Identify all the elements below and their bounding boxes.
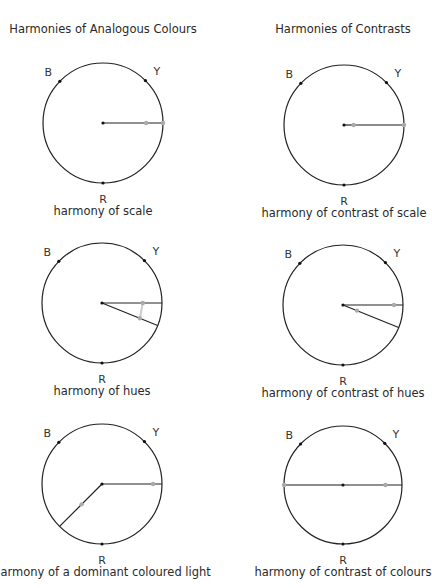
column-title-contrasts: Harmonies of Contrasts [275, 22, 411, 36]
radius-arm [343, 305, 399, 327]
diagram-caption: harmony of contrast of colours [254, 565, 431, 579]
harmony-diagram: BYRharmony of hues [42, 243, 162, 398]
pole-label-b: B [286, 68, 294, 81]
harmony-diagram: BYRharmony of contrast of colours [254, 426, 431, 579]
pole-dot-y [385, 81, 388, 84]
pole-label-b: B [44, 427, 52, 440]
pole-dot-r [341, 363, 344, 366]
diagram-caption: harmony of contrast of hues [261, 386, 424, 400]
pole-dot-b [57, 260, 60, 263]
pole-dot-r [100, 542, 103, 545]
pole-label-b: B [45, 66, 53, 79]
center-dot [341, 303, 344, 306]
radius-arm [102, 303, 158, 325]
diagram-caption: harmony of a dominant coloured light [0, 565, 211, 579]
pole-dot-r [101, 181, 104, 184]
value-marker [392, 303, 396, 307]
diagram-caption: harmony of contrast of scale [261, 206, 426, 220]
pole-dot-b [58, 80, 61, 83]
harmony-diagram: BYRharmony of contrast of hues [261, 245, 424, 400]
pole-dot-b [299, 442, 302, 445]
value-marker [355, 308, 359, 312]
value-marker [282, 483, 286, 487]
pole-label-b: B [44, 246, 52, 259]
pole-label-b: B [285, 248, 293, 261]
pole-dot-r [342, 183, 345, 186]
value-marker [161, 121, 165, 125]
pole-dot-y [143, 259, 146, 262]
value-marker [151, 482, 155, 486]
pole-label-b: B [285, 429, 293, 442]
harmony-diagram: BYRharmony of a dominant coloured light [0, 424, 211, 579]
value-marker [138, 316, 142, 320]
center-dot [100, 482, 103, 485]
value-marker [351, 123, 355, 127]
center-dot [101, 121, 104, 124]
center-dot [341, 483, 344, 486]
value-marker [141, 301, 145, 305]
pole-dot-y [383, 442, 386, 445]
harmony-diagram: BYRharmony of contrast of scale [261, 65, 426, 220]
hue-connector [140, 303, 143, 318]
pole-dot-b [299, 82, 302, 85]
pole-label-y: Y [151, 245, 159, 258]
pole-label-y: Y [392, 428, 400, 441]
value-marker [402, 123, 406, 127]
harmony-diagram: BYRharmony of scale [43, 63, 165, 218]
value-marker [79, 502, 83, 506]
pole-dot-r [100, 361, 103, 364]
diagram-caption: harmony of scale [53, 204, 152, 218]
pole-label-y: Y [393, 67, 401, 80]
value-marker [144, 121, 148, 125]
pole-dot-y [143, 440, 146, 443]
pole-dot-b [298, 262, 301, 265]
colour-harmony-diagram: Harmonies of Analogous Colours Harmonies… [0, 0, 432, 588]
pole-dot-r [341, 542, 344, 545]
value-marker [383, 483, 387, 487]
pole-label-y: Y [152, 65, 160, 78]
diagram-caption: harmony of hues [53, 384, 150, 398]
pole-dot-b [57, 441, 60, 444]
center-dot [342, 123, 345, 126]
pole-dot-y [144, 79, 147, 82]
column-title-analogous: Harmonies of Analogous Colours [9, 22, 196, 36]
center-dot [100, 301, 103, 304]
pole-label-y: Y [392, 247, 400, 260]
pole-dot-y [384, 261, 387, 264]
pole-label-y: Y [151, 426, 159, 439]
